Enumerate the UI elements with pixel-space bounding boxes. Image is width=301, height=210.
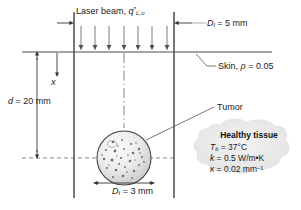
tissue-property-absorption: κ = 0.02 mm–1 (210, 164, 292, 174)
healthy-tissue-title: Healthy tissue (206, 130, 292, 140)
laser-flux-symbol: q″L,o (129, 6, 145, 16)
tumor-sphere (97, 131, 151, 185)
tumor-label: Tumor (217, 103, 243, 112)
laser-tumor-diagram: Laser beam, q″L,o Dl = 5 mm Skin, ρ = 0.… (0, 0, 301, 210)
tissue-property-conductivity: k = 0.5 W/m•K (210, 153, 292, 163)
depth-label: d = 20 mm (8, 97, 51, 106)
skin-label: Skin, ρ = 0.05 (218, 62, 273, 71)
laser-diameter-label: Dl = 5 mm (207, 19, 248, 29)
skin-leader-line (196, 54, 216, 66)
laser-beam-label: Laser beam, q″L,o (76, 6, 145, 17)
tissue-property-temperature: Tb = 37°C (210, 142, 292, 152)
x-coordinate-label: x (51, 78, 56, 87)
tumor-diameter-label: Dt = 3 mm (112, 187, 153, 197)
healthy-tissue-property-box: Healthy tissue Tb = 37°C k = 0.5 W/m•K κ… (206, 130, 292, 175)
laser-beam-text: Laser beam, (76, 6, 126, 16)
laser-arrows-group (81, 26, 167, 48)
